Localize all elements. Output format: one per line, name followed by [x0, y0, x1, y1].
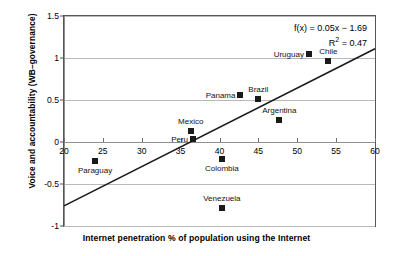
y-axis-title: Voice and accountability (WB–governance) [27, 0, 37, 211]
data-point-label: Uruguay [274, 49, 304, 58]
data-point-marker [306, 51, 312, 57]
data-point-label: Argentina [262, 106, 296, 115]
chart-figure: Voice and accountability (WB–governance)… [0, 0, 393, 256]
regression-equation: f(x) = 0.05x − 1.69 [294, 22, 367, 35]
data-point-marker [92, 158, 98, 164]
regression-r2: R2 = 0.47 [294, 35, 367, 50]
y-tick-label: -1 [51, 221, 59, 231]
data-point-label: Brazil [248, 85, 268, 94]
data-point-marker [237, 92, 243, 98]
y-tick-label: -0.5 [44, 179, 59, 189]
plot-inner: -1-0.500.511.5 202530354045505560 Paragu… [64, 16, 375, 226]
data-point-marker [325, 58, 331, 64]
data-point-marker [219, 156, 225, 162]
x-axis-title: Internet penetration % of population usi… [0, 233, 393, 243]
data-point-marker [255, 96, 261, 102]
data-point-marker [276, 117, 282, 123]
plot-area: -1-0.500.511.5 202530354045505560 Paragu… [63, 15, 376, 227]
data-point-label: Colombia [205, 164, 239, 173]
gridline [64, 226, 375, 227]
x-tick-mark [375, 138, 376, 142]
data-point-marker [190, 136, 196, 142]
data-point-marker [188, 128, 194, 134]
y-tick-label: 1.5 [47, 11, 59, 21]
data-point-marker [219, 205, 225, 211]
regression-annotation: f(x) = 0.05x − 1.69 R2 = 0.47 [294, 22, 367, 50]
data-point-label: Peru [171, 135, 188, 144]
data-point-label: Panama [206, 90, 236, 99]
data-point-label: Mexico [178, 117, 203, 126]
data-point-label: Paraguay [78, 166, 112, 175]
y-tick-label: 1 [54, 53, 59, 63]
data-point-label: Venezuela [203, 194, 240, 203]
y-tick-label: 0.5 [47, 95, 59, 105]
